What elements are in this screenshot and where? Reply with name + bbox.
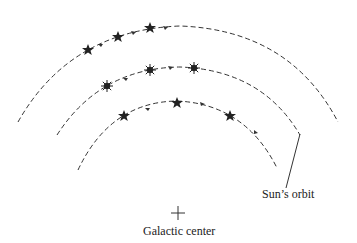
star-icon (224, 110, 236, 121)
sun-orbit-pointer (286, 134, 300, 188)
outer-orbit-arc (18, 26, 338, 122)
star-icon (118, 110, 130, 121)
sunburst-icon (188, 62, 200, 74)
inner-orbit-arc (78, 101, 277, 170)
sunburst-icon (144, 64, 156, 76)
outer-orbit-stars (82, 22, 156, 55)
galactic-center-cross-icon (171, 206, 185, 220)
middle-orbit-stars (101, 62, 200, 92)
star-icon (144, 22, 156, 33)
star-icon (82, 44, 94, 55)
star-icon (171, 97, 183, 108)
galactic-center-label: Galactic center (143, 224, 215, 239)
inner-orbit-stars (118, 97, 236, 121)
sunburst-icon (101, 80, 113, 92)
sun-orbit-label: Sun’s orbit (262, 187, 314, 202)
star-icon (112, 31, 124, 42)
orbit-diagram (0, 0, 357, 243)
